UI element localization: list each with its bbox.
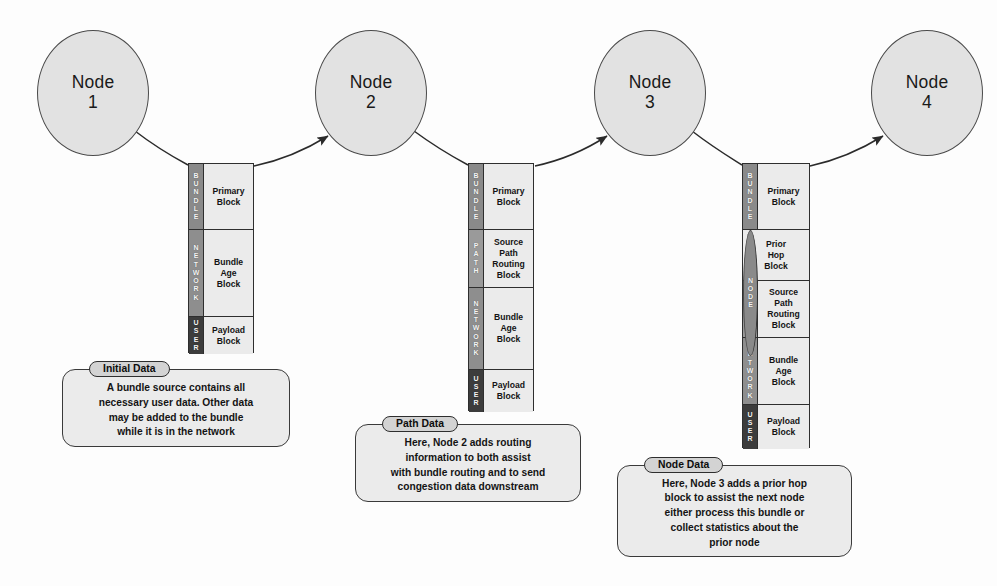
callout-line: while it is in the network — [99, 425, 254, 440]
node-circle-3[interactable]: Node 3 — [594, 30, 706, 156]
tier-label-network: NETWORK — [469, 288, 484, 369]
node-circle-1[interactable]: Node 1 — [37, 30, 149, 156]
tier-label-bundle: BUNDLE — [743, 164, 758, 229]
callout-line: Here, Node 2 adds routing — [391, 436, 546, 451]
block-line: Block — [217, 279, 240, 290]
node-label: Node — [350, 73, 393, 93]
bundle-row[interactable]: BUNDLE Primary Block — [189, 164, 253, 230]
tier-letter: B — [193, 172, 198, 180]
tier-letter: H — [473, 267, 478, 275]
block-line: Hop — [768, 250, 785, 261]
callout-line: block to assist the next node — [662, 491, 807, 506]
tier-letter: S — [748, 419, 753, 427]
tier-letter: E — [194, 252, 199, 260]
block-line: Bundle — [769, 355, 798, 366]
tier-letter: R — [193, 344, 198, 352]
block-line: Block — [217, 197, 240, 208]
block-primary: Primary Block — [758, 164, 809, 229]
bundle-row[interactable]: USER Payload Block — [469, 370, 533, 412]
callout-line: congestion data downstream — [391, 480, 546, 495]
callout-node-data[interactable]: Node Data Here, Node 3 adds a prior hop … — [617, 465, 852, 557]
block-bundle-age: Bundle Age Block — [484, 288, 533, 369]
block-line: Routing — [767, 309, 799, 320]
tier-letter: R — [473, 341, 478, 349]
tier-letter: N — [473, 300, 478, 308]
tier-letter: N — [473, 188, 478, 196]
tier-letter: D — [748, 293, 753, 301]
block-line: Source — [494, 237, 523, 248]
bundle-stack-1[interactable]: BUNDLE Primary Block NETWORK Bundle Age … — [188, 163, 254, 353]
edge-stack3-to-node4 — [810, 136, 883, 166]
callout-line: prior node — [662, 536, 807, 551]
node-circle-4[interactable]: Node 4 — [871, 30, 983, 156]
callout-line: with bundle routing and to send — [391, 466, 546, 481]
bundle-row[interactable]: NODE Prior Hop Block — [743, 230, 809, 281]
tier-letter: E — [474, 391, 479, 399]
edge-stack1-to-node2 — [254, 136, 328, 166]
block-line: Block — [497, 391, 520, 402]
tier-letter: U — [193, 319, 198, 327]
tier-label-user: USER — [469, 370, 484, 412]
bundle-row[interactable]: BUNDLE Primary Block — [743, 164, 809, 230]
callout-body: A bundle source contains all necessary u… — [99, 381, 254, 440]
block-line: Primary — [767, 186, 799, 197]
tier-letter: S — [474, 383, 479, 391]
tier-letter: U — [747, 180, 752, 188]
block-line: Block — [772, 320, 795, 331]
tier-letter: U — [473, 375, 478, 383]
tier-letter: K — [473, 349, 478, 357]
bundle-row[interactable]: NETWORK Bundle Age Block — [189, 230, 253, 317]
callout-initial-data[interactable]: Initial Data A bundle source contains al… — [62, 369, 290, 447]
block-line: Block — [772, 377, 795, 388]
tier-letter: P — [474, 242, 479, 250]
bundle-row[interactable]: BUNDLE Primary Block — [469, 164, 533, 230]
block-line: Path — [499, 248, 518, 259]
tier-letter: T — [194, 261, 198, 269]
block-line: Path — [774, 298, 793, 309]
block-line: Primary — [492, 186, 524, 197]
bundle-stack-3[interactable]: BUNDLE Primary Block NODE Prior Hop Bloc… — [742, 163, 810, 448]
tier-letter: E — [194, 213, 199, 221]
tier-letter: W — [193, 269, 200, 277]
bundle-stack-2[interactable]: BUNDLE Primary Block PATH Source Path Ro… — [468, 163, 534, 411]
tier-letter: A — [473, 250, 478, 258]
bundle-row[interactable]: NETWORK Bundle Age Block — [469, 288, 533, 370]
bundle-row[interactable]: PATH Source Path Routing Block — [469, 230, 533, 288]
tier-letter: T — [748, 359, 752, 367]
tier-letter: W — [473, 324, 480, 332]
tier-letter: B — [747, 172, 752, 180]
tier-letter: N — [193, 188, 198, 196]
callout-line: information to both assist — [391, 451, 546, 466]
tier-letter: K — [747, 392, 752, 400]
block-line: Age — [775, 366, 791, 377]
tier-letter: O — [748, 285, 753, 293]
tier-letter: R — [193, 285, 198, 293]
block-line: Primary — [212, 186, 244, 197]
callout-path-data[interactable]: Path Data Here, Node 2 adds routing info… — [355, 424, 581, 502]
bundle-row[interactable]: USER Payload Block — [189, 317, 253, 354]
node-label: Node — [72, 73, 115, 93]
edge-node3-to-stack3 — [692, 131, 742, 165]
node-circle-2[interactable]: Node 2 — [315, 30, 427, 156]
callout-line: necessary user data. Other data — [99, 396, 254, 411]
tier-letter: U — [473, 180, 478, 188]
tier-label-node: NODE — [743, 230, 758, 356]
bundle-row[interactable]: USER Payload Block — [743, 405, 809, 449]
tier-label-network: NETWORK — [189, 230, 204, 316]
tier-letter: O — [473, 333, 478, 341]
block-payload: Payload Block — [204, 317, 253, 354]
block-source-path-routing: Source Path Routing Block — [484, 230, 533, 287]
tier-letter: U — [193, 180, 198, 188]
block-source-path-routing: Source Path Routing Block — [758, 281, 809, 337]
tier-letter: L — [474, 205, 478, 213]
block-line: Block — [764, 261, 787, 272]
block-line: Block — [497, 270, 520, 281]
tier-letter: R — [473, 399, 478, 407]
edge-node2-to-stack2 — [414, 131, 468, 165]
block-line: Block — [497, 334, 520, 345]
tier-letter: K — [193, 294, 198, 302]
tier-letter: S — [194, 327, 199, 335]
tier-letter: W — [747, 367, 754, 375]
block-line: Prior — [766, 239, 786, 250]
tier-label-user: USER — [743, 405, 758, 449]
